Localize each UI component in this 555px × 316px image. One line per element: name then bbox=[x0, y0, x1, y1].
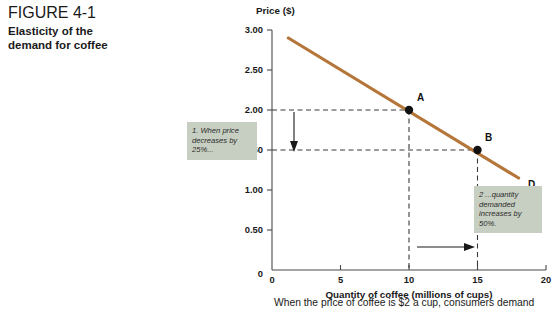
point-b-marker[interactable] bbox=[473, 146, 481, 154]
quantity-annotation-box: 2 ...quantity demanded increases by 50%. bbox=[474, 186, 542, 233]
demand-curve-chart: Price ($) 3.00 2.50 2.00 1.50 1.00 0.50 … bbox=[240, 0, 555, 300]
price-annotation-box: 1. When price decreases by 25%... bbox=[187, 122, 257, 160]
x-tick-label-0: 0 bbox=[269, 274, 274, 285]
y-axis-title: Price ($) bbox=[256, 5, 295, 16]
demand-curve-line[interactable] bbox=[288, 38, 518, 178]
y-tick-label-250: 2.50 bbox=[245, 64, 263, 75]
figure-title: Elasticity of the demand for coffee bbox=[8, 25, 113, 52]
chart-svg: Price ($) 3.00 2.50 2.00 1.50 1.00 0.50 … bbox=[240, 0, 555, 300]
x-tick-label-10: 10 bbox=[404, 274, 414, 285]
point-b-label: B bbox=[485, 132, 492, 143]
y-tick-label-100: 1.00 bbox=[245, 184, 263, 195]
y-tick-label-050: 0.50 bbox=[245, 224, 263, 235]
point-a-label: A bbox=[417, 92, 424, 103]
x-tick-label-5: 5 bbox=[338, 274, 343, 285]
y-tick-label-200: 2.00 bbox=[245, 104, 263, 115]
quantity-increase-arrow-head bbox=[464, 243, 475, 251]
figure-number: FIGURE 4-1 bbox=[8, 4, 178, 22]
x-axis-ticks: 0 5 10 15 20 bbox=[269, 265, 551, 285]
figure-caption: When the price of coffee is $2 a cup, co… bbox=[274, 296, 554, 309]
point-a-marker[interactable] bbox=[405, 106, 413, 114]
x-tick-label-15: 15 bbox=[472, 274, 482, 285]
y-tick-label-0: 0 bbox=[258, 268, 263, 279]
x-tick-label-20: 20 bbox=[541, 274, 551, 285]
figure-header: FIGURE 4-1 Elasticity of the demand for … bbox=[8, 4, 178, 52]
y-tick-label-300: 3.00 bbox=[245, 24, 263, 35]
